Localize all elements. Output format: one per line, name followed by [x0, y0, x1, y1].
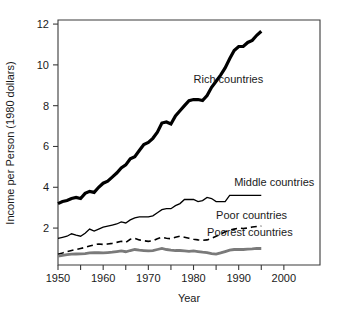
- x-tick-label: 1990: [226, 272, 250, 284]
- y-tick-label: 6: [43, 140, 49, 152]
- x-axis-title: Year: [178, 292, 201, 304]
- y-axis-title: Income per Person (1980 dollars): [4, 61, 16, 224]
- x-tick-label: 2000: [272, 272, 296, 284]
- series-label-middle-countries: Middle countries: [234, 176, 315, 188]
- y-tick-label: 4: [43, 181, 49, 193]
- x-tick-label: 1960: [91, 272, 115, 284]
- y-tick-label: 2: [43, 222, 49, 234]
- series-label-poor-countries: Poor countries: [216, 209, 287, 221]
- x-tick-label: 1950: [46, 272, 70, 284]
- y-axis-ticks: [53, 24, 58, 228]
- data-series-group: [58, 31, 261, 256]
- y-tick-label: 12: [37, 18, 49, 30]
- y-axis-tick-labels: 24681012: [37, 18, 49, 234]
- income-per-person-line-chart: 195019601970198019902000 24681012 Rich c…: [0, 0, 340, 315]
- x-tick-label: 1970: [136, 272, 160, 284]
- series-label-rich-countries: Rich countries: [194, 73, 264, 85]
- y-tick-label: 8: [43, 100, 49, 112]
- series-label-poorest-countries: Poorest countries: [207, 226, 293, 238]
- series-inline-labels: Rich countriesMiddle countriesPoor count…: [194, 73, 315, 238]
- x-axis-tick-labels: 195019601970198019902000: [46, 272, 296, 284]
- x-axis-ticks: [58, 265, 284, 270]
- y-tick-label: 10: [37, 59, 49, 71]
- chart-figure: 195019601970198019902000 24681012 Rich c…: [0, 0, 340, 315]
- series-line-rich-countries: [58, 31, 261, 203]
- series-line-poorest-countries: [58, 248, 261, 256]
- x-tick-label: 1980: [181, 272, 205, 284]
